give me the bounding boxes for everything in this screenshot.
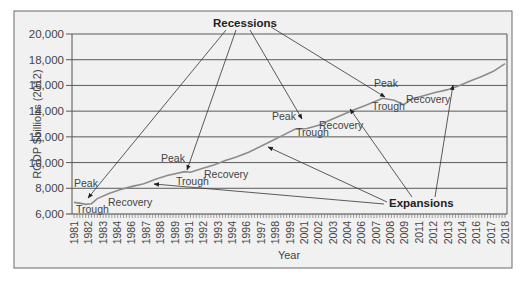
x-tick-label: 2003 [327, 221, 339, 245]
x-tick-label: 1999 [284, 221, 296, 245]
x-tick-label: 1998 [269, 221, 281, 245]
y-axis-label: RGDP $billions (2012) [31, 69, 43, 178]
x-tick-label: 2008 [384, 221, 396, 245]
x-tick-label: 1984 [111, 221, 123, 245]
x-tick-label: 1987 [140, 221, 152, 245]
x-tick-label: 1988 [154, 221, 166, 245]
x-tick-label: 1992 [197, 221, 209, 245]
x-tick-label: 1982 [82, 221, 94, 245]
peak-label-2001: Peak [272, 110, 297, 122]
x-tick-label: 2016 [470, 221, 482, 245]
peak-label-1981: Peak [74, 177, 99, 189]
x-tick-label: 1996 [240, 221, 252, 245]
x-tick-label: 2012 [427, 221, 439, 245]
expansions-callout: Expansions [389, 197, 454, 209]
x-tick-label: 2007 [370, 221, 382, 245]
y-tick-label: 6,000 [35, 208, 64, 220]
recovery-label-1983: Recovery [108, 196, 153, 208]
recovery-label-2002: Recovery [319, 119, 364, 131]
x-tick-label: 1981 [68, 221, 80, 245]
y-tick-label: 8,000 [35, 182, 64, 194]
recovery-label-1992: Recovery [204, 168, 249, 180]
y-tick-label: 18,000 [29, 54, 64, 66]
x-tick-label: 2018 [499, 221, 511, 245]
x-tick-label: 1983 [97, 221, 109, 245]
recovery-label-2010: Recovery [406, 93, 451, 105]
x-tick-label: 1986 [125, 221, 137, 245]
x-tick-label: 1994 [226, 221, 238, 245]
x-tick-label: 1997 [255, 221, 267, 245]
x-tick-label: 2004 [341, 221, 353, 245]
x-tick-label: 2001 [298, 221, 310, 245]
x-tick-label: 2009 [398, 221, 410, 245]
x-axis-label: Year [278, 249, 301, 261]
peak-label-2007: Peak [374, 77, 399, 89]
x-tick-label: 1993 [212, 221, 224, 245]
x-tick-label: 2006 [355, 221, 367, 245]
trough-label-1982: Trough [76, 203, 109, 215]
x-tick-label: 2017 [485, 221, 497, 245]
x-tick-label: 2014 [456, 221, 468, 245]
x-tick-label: 2002 [312, 221, 324, 245]
rgdp-chart: 6,0008,00010,00012,00014,00016,00018,000… [0, 0, 525, 284]
recessions-callout: Recessions [213, 17, 277, 29]
trough-label-2009: Trough [372, 100, 405, 112]
x-tick-label: 2011 [413, 221, 425, 244]
x-tick-label: 1991 [183, 221, 195, 245]
x-tick-label: 1989 [169, 221, 181, 245]
peak-label-1990: Peak [161, 152, 186, 164]
y-tick-label: 20,000 [29, 28, 64, 40]
x-tick-label: 2013 [442, 221, 454, 245]
